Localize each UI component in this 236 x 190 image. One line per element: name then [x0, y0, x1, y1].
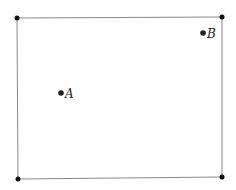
point-b-dot	[200, 30, 206, 36]
point-b-label: B	[206, 27, 216, 41]
diagram-canvas: A B	[0, 0, 236, 190]
corner-dot-top-right	[220, 15, 225, 20]
corner-dot-bottom-right	[220, 175, 225, 180]
rectangle-outline	[17, 17, 222, 179]
point-a-dot	[58, 90, 64, 96]
point-a-label: A	[64, 87, 74, 101]
corner-dot-top-left	[15, 16, 20, 21]
corner-dot-bottom-left	[16, 177, 21, 182]
